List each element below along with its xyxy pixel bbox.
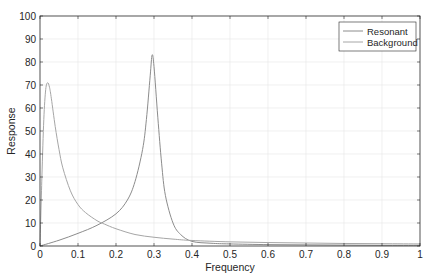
y-tick-label: 70 [25, 80, 37, 91]
x-tick-label: 0.2 [109, 249, 123, 260]
y-tick-label: 50 [25, 126, 37, 137]
x-tick-label: 0.6 [261, 249, 275, 260]
y-tick-label: 100 [19, 11, 36, 22]
y-tick-label: 10 [25, 218, 37, 229]
y-axis-label: Response [5, 107, 17, 154]
x-tick-label: 1 [417, 249, 423, 260]
y-tick-label: 0 [30, 241, 36, 252]
x-tick-label: 0.8 [337, 249, 351, 260]
y-tick-label: 20 [25, 195, 37, 206]
x-tick-label: 0.1 [71, 249, 85, 260]
y-tick-label: 90 [25, 34, 37, 45]
y-tick-label: 80 [25, 57, 37, 68]
x-tick-label: 0.7 [299, 249, 313, 260]
x-tick-label: 0.3 [147, 249, 161, 260]
legend-label-resonant: Resonant [367, 26, 408, 37]
y-tick-label: 30 [25, 172, 37, 183]
legend-label-background: Background [367, 37, 418, 48]
legend: Resonant Background [339, 22, 418, 51]
x-axis-label: Frequency [205, 261, 255, 273]
x-tick-label: 0.5 [223, 249, 237, 260]
response-chart: 00.10.20.30.40.50.60.70.80.9101020304050… [0, 0, 432, 280]
y-tick-label: 60 [25, 103, 37, 114]
x-tick-label: 0.9 [375, 249, 389, 260]
x-tick-label: 0.4 [185, 249, 199, 260]
y-tick-label: 40 [25, 149, 37, 160]
x-tick-label: 0 [37, 249, 43, 260]
